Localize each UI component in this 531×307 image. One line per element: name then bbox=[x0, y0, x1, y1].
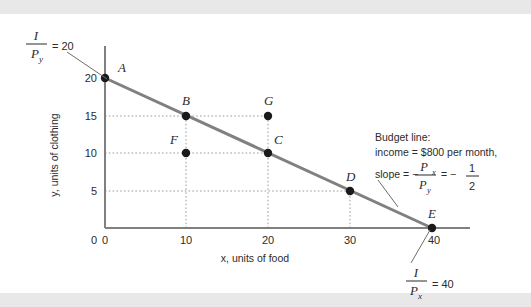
budget-box-leader-line bbox=[378, 180, 398, 207]
y-tick-20: 20 bbox=[85, 72, 97, 84]
x-tick-10: 10 bbox=[180, 234, 192, 246]
point-D bbox=[346, 187, 354, 195]
y-tick-10: 10 bbox=[85, 147, 97, 159]
y-tick-5: 5 bbox=[91, 185, 97, 197]
budget-line-annotation: Budget line: income = $800 per month, sl… bbox=[375, 131, 497, 195]
x-intercept-annotation: I P x = 40 bbox=[406, 265, 454, 301]
slope-numerator: P bbox=[419, 160, 428, 174]
y-intercept-denominator: P bbox=[30, 46, 39, 61]
y-intercept-numerator: I bbox=[33, 28, 39, 43]
slope-denominator-subscript: y bbox=[426, 185, 431, 195]
x-tick-0: 0 bbox=[102, 234, 108, 246]
y-intercept-denominator-subscript: y bbox=[38, 54, 43, 64]
x-intercept-value: = 40 bbox=[432, 278, 454, 290]
budget-annotation-line1: Budget line: bbox=[375, 131, 430, 143]
x-intercept-denominator: P bbox=[409, 283, 418, 298]
x-intercept-leader-line bbox=[411, 230, 430, 263]
slope-value-numerator: 1 bbox=[469, 162, 475, 174]
point-label-E: E bbox=[427, 206, 436, 221]
point-B bbox=[182, 112, 190, 120]
y-intercept-annotation: I P y = 20 bbox=[26, 28, 74, 64]
x-axis-title: x, units of food bbox=[221, 252, 289, 264]
point-label-D: D bbox=[345, 169, 356, 184]
budget-annotation-slope-prefix: slope = − bbox=[375, 168, 418, 180]
budget-line-figure: 20 15 10 5 0 0 10 20 30 40 x, units of f… bbox=[0, 0, 531, 307]
y-intercept-value: = 20 bbox=[52, 40, 74, 52]
y-tick-0: 0 bbox=[91, 234, 97, 246]
point-F bbox=[182, 149, 190, 157]
point-label-F: F bbox=[169, 132, 179, 147]
y-axis-title: y, units of clothing bbox=[48, 113, 60, 196]
slope-value-denominator: 2 bbox=[469, 180, 475, 192]
y-tick-15: 15 bbox=[85, 110, 97, 122]
x-tick-40: 40 bbox=[428, 234, 440, 246]
point-G bbox=[264, 112, 272, 120]
budget-annotation-line2: income = $800 per month, bbox=[375, 146, 497, 158]
point-label-B: B bbox=[182, 93, 190, 108]
budget-annotation-slope-equals: = − bbox=[441, 168, 456, 180]
x-tick-20: 20 bbox=[262, 234, 274, 246]
x-intercept-denominator-subscript: x bbox=[417, 291, 422, 301]
point-label-C: C bbox=[274, 132, 283, 147]
slope-denominator: P bbox=[418, 178, 427, 192]
point-label-G: G bbox=[264, 93, 274, 108]
point-label-A: A bbox=[117, 60, 126, 75]
x-tick-30: 30 bbox=[344, 234, 356, 246]
chart-canvas: 20 15 10 5 0 0 10 20 30 40 x, units of f… bbox=[0, 0, 531, 307]
point-C bbox=[264, 149, 272, 157]
x-intercept-numerator: I bbox=[413, 265, 419, 280]
